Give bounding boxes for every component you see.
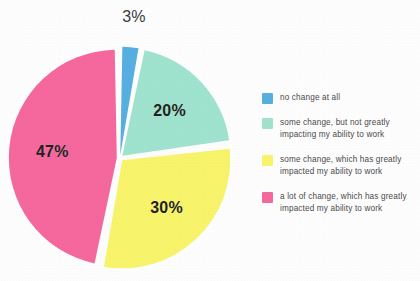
legend-color-swatch-icon (262, 155, 273, 166)
legend-item-label: a lot of change, which has greatly impac… (280, 191, 420, 215)
pie-slice-value-label: 20% (153, 102, 186, 120)
legend-color-swatch-icon (262, 118, 273, 129)
pie-chart-figure: 3%20%30%47% no change at allsome change,… (0, 0, 420, 281)
legend-item-label: some change, but not greatly impacting m… (280, 117, 420, 141)
chart-legend: no change at allsome change, but not gre… (262, 92, 420, 228)
legend-item[interactable]: a lot of change, which has greatly impac… (262, 191, 420, 215)
legend-color-swatch-icon (262, 93, 273, 104)
legend-item[interactable]: some change, which has greatly impacted … (262, 154, 420, 178)
pie-chart-svg (0, 0, 252, 281)
legend-item[interactable]: some change, but not greatly impacting m… (262, 117, 420, 141)
pie-chart-plot-area: 3%20%30%47% (0, 0, 252, 281)
pie-slice-value-label: 47% (36, 143, 69, 161)
legend-item[interactable]: no change at all (262, 92, 420, 104)
pie-slice-value-label: 3% (122, 8, 146, 26)
legend-item-label: some change, which has greatly impacted … (280, 154, 420, 178)
legend-color-swatch-icon (262, 192, 273, 203)
pie-slice-value-label: 30% (150, 199, 183, 217)
legend-item-label: no change at all (280, 92, 340, 104)
